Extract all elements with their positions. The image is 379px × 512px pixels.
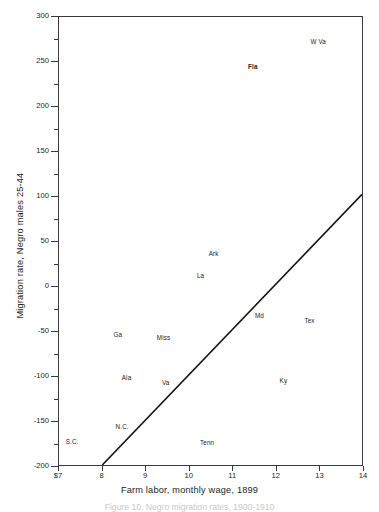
- y-axis: 300250200150100500-50-100-150-200: [0, 16, 58, 466]
- data-point-label: Tenn: [200, 440, 214, 446]
- data-point-label: Md: [255, 313, 264, 319]
- data-point-label: Tex: [304, 318, 314, 324]
- data-point-label: S.C.: [66, 439, 79, 445]
- figure-caption: Figure 10. Negro migration rates, 1900-1…: [0, 503, 379, 512]
- y-tick-major: [51, 286, 58, 287]
- x-tick-label: 11: [228, 472, 236, 480]
- y-tick-major: [51, 376, 58, 377]
- data-point-label: Miss: [157, 335, 171, 341]
- y-tick-major: [51, 241, 58, 242]
- y-tick-major: [51, 196, 58, 197]
- y-tick-label: 200: [36, 102, 49, 110]
- y-tick-major: [51, 61, 58, 62]
- y-tick-label: -100: [34, 372, 49, 380]
- data-point-label: Ala: [122, 375, 132, 381]
- y-tick-major: [51, 106, 58, 107]
- data-point-label: Ky: [280, 377, 288, 383]
- y-tick-major: [51, 331, 58, 332]
- y-tick-major: [51, 151, 58, 152]
- y-tick-label: -150: [34, 417, 49, 425]
- y-tick-label: -200: [34, 462, 49, 470]
- y-tick-label: 100: [36, 192, 49, 200]
- x-tick-label: 10: [184, 472, 192, 480]
- y-tick-label: 150: [36, 147, 49, 155]
- x-tick-label: 12: [272, 472, 280, 480]
- x-tick-label: 9: [143, 472, 147, 480]
- y-axis-title: Migration rate, Negro males 25-44: [16, 131, 25, 361]
- y-tick-major: [51, 16, 58, 17]
- data-point-label: Ark: [209, 251, 219, 257]
- y-tick-label: -50: [38, 327, 49, 335]
- plot-area: W VaFlaArkLaMdTexGaMissAlaVaKyN.C.S.C.Te…: [58, 16, 363, 466]
- data-point-label: La: [197, 273, 204, 279]
- x-tick-label: 8: [99, 472, 103, 480]
- data-point-labels: W VaFlaArkLaMdTexGaMissAlaVaKyN.C.S.C.Te…: [59, 17, 362, 465]
- data-point-label: Fla: [248, 63, 258, 69]
- y-tick-major: [51, 421, 58, 422]
- data-point-label: W Va: [310, 39, 326, 45]
- x-tick-label: $7: [54, 472, 62, 480]
- x-tick-label: 13: [315, 472, 323, 480]
- y-tick-label: 0: [45, 282, 49, 290]
- y-tick-label: 300: [36, 12, 49, 20]
- y-tick-label: 250: [36, 57, 49, 65]
- y-tick-label: 50: [41, 237, 49, 245]
- data-point-label: N.C.: [116, 423, 129, 429]
- x-axis-title: Farm labor, monthly wage, 1899: [0, 486, 379, 495]
- x-tick-label: 14: [359, 472, 367, 480]
- data-point-label: Va: [162, 380, 170, 386]
- y-tick-major: [51, 466, 58, 467]
- data-point-label: Ga: [113, 332, 122, 338]
